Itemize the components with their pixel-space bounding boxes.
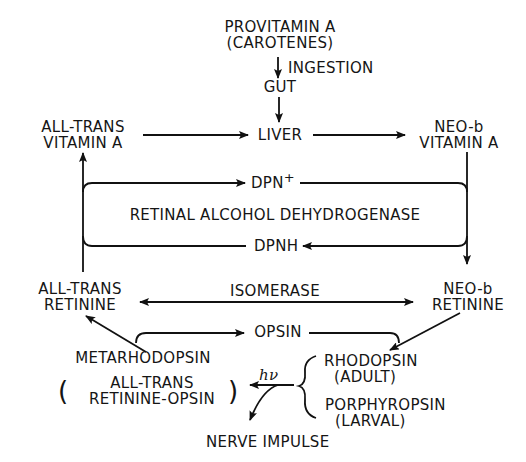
paren-close: ) xyxy=(228,378,238,404)
node-liver: LIVER xyxy=(248,127,312,143)
metarhodopsin-inner: ALL-TRANS RETININE-OPSIN xyxy=(76,375,228,407)
provitamin-line1: PROVITAMIN A xyxy=(200,19,360,35)
cofactor-dpn-plus: DPN+ xyxy=(251,175,295,191)
dpn-text: DPN xyxy=(251,174,284,192)
paren-open: ( xyxy=(58,378,68,404)
all-trans-vitamin-a-line1: ALL-TRANS xyxy=(18,119,148,135)
metarhodopsin-line2: RETININE-OPSIN xyxy=(76,391,228,407)
all-trans-retinine-line1: ALL-TRANS xyxy=(18,281,142,297)
enzyme-retinal-alcohol-dehydrogenase: RETINAL ALCOHOL DEHYDROGENASE xyxy=(95,207,455,223)
neo-b-retinine-line1: NEO-b xyxy=(420,281,516,297)
node-porphyropsin: PORPHYROPSIN (LARVAL) xyxy=(325,397,446,429)
metarhodopsin-line1: ALL-TRANS xyxy=(76,375,228,391)
provitamin-line2: (CAROTENES) xyxy=(200,35,360,51)
neo-b-vitamin-a-line1: NEO-b xyxy=(404,119,514,135)
rhodopsin-line1: RHODOPSIN xyxy=(324,353,418,369)
dpn-plus-sup: + xyxy=(284,170,295,185)
node-metarhodopsin-complex: ( ALL-TRANS RETININE-OPSIN ) xyxy=(58,374,244,408)
node-neo-b-vitamin-a: NEO-b VITAMIN A xyxy=(404,119,514,151)
node-gut: GUT xyxy=(250,79,310,95)
node-provitamin-a: PROVITAMIN A (CAROTENES) xyxy=(200,19,360,51)
rhodopsin-line2: (ADULT) xyxy=(324,369,418,385)
node-nerve-impulse: NERVE IMPULSE xyxy=(206,434,329,450)
node-opsin: OPSIN xyxy=(248,324,308,340)
label-isomerase: ISOMERASE xyxy=(215,283,335,299)
porphyropsin-line2: (LARVAL) xyxy=(325,413,446,429)
label-light-hv: hν xyxy=(259,367,278,383)
label-ingestion: INGESTION xyxy=(288,60,374,76)
node-all-trans-retinine: ALL-TRANS RETININE xyxy=(18,281,142,313)
neo-b-vitamin-a-line2: VITAMIN A xyxy=(404,135,514,151)
node-all-trans-vitamin-a: ALL-TRANS VITAMIN A xyxy=(18,119,148,151)
neo-b-retinine-line2: RETININE xyxy=(420,297,516,313)
all-trans-retinine-line2: RETININE xyxy=(18,297,142,313)
porphyropsin-line1: PORPHYROPSIN xyxy=(325,397,446,413)
node-rhodopsin: RHODOPSIN (ADULT) xyxy=(324,353,418,385)
cofactor-dpnh: DPNH xyxy=(254,238,298,254)
node-metarhodopsin-title: METARHODOPSIN xyxy=(60,350,226,366)
node-neo-b-retinine: NEO-b RETININE xyxy=(420,281,516,313)
all-trans-vitamin-a-line2: VITAMIN A xyxy=(18,135,148,151)
